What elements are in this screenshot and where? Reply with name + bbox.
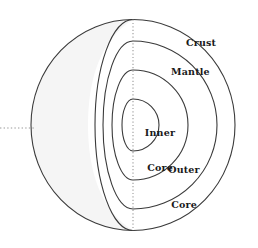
- label-outer-core: Outer Core: [163, 141, 205, 233]
- label-outer-core-line2: Core: [163, 199, 205, 211]
- label-crust: Crust: [186, 37, 216, 49]
- label-mantle: Mantle: [171, 66, 210, 78]
- earth-cutaway-illustration: [0, 0, 258, 248]
- earth-structure-diagram: Crust Mantle Inner Core Outer Core: [0, 0, 258, 248]
- label-outer-core-line1: Outer: [163, 164, 205, 176]
- label-inner-core-line1: Inner: [140, 127, 180, 139]
